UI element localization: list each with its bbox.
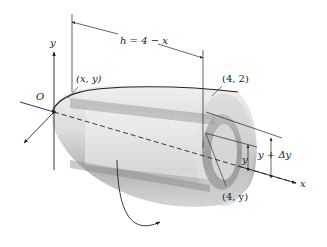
label-radius-y: y — [241, 154, 248, 165]
label-height: h = 4 − x — [120, 35, 168, 46]
z-axis — [24, 112, 54, 143]
label-radius-y-plus-dy: y + Δy — [257, 149, 292, 160]
label-x-axis: x — [300, 178, 306, 189]
shell-method-diagram: O y x (x, y) (4, 2) (4, y) h = 4 − x y y… — [0, 0, 327, 247]
label-point-4-2: (4, 2) — [222, 73, 249, 84]
label-origin: O — [36, 91, 44, 102]
label-y-axis: y — [49, 37, 56, 48]
label-point-4-y: (4, y) — [222, 191, 248, 202]
label-point-xy: (x, y) — [76, 73, 102, 84]
